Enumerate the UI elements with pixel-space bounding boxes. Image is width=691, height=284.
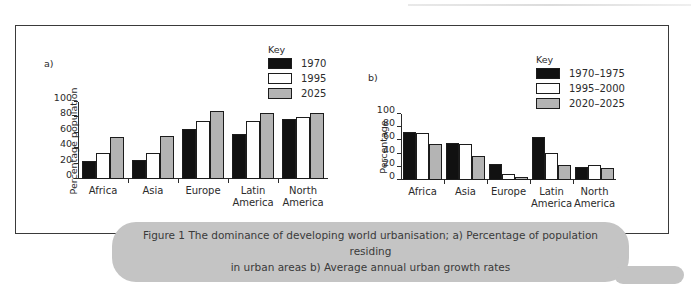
bar	[575, 167, 588, 180]
x-axis-label: Africa	[408, 186, 437, 198]
x-axis-label: Asia	[455, 186, 476, 198]
legend-swatch-icon	[268, 58, 292, 69]
scanner-artifact-line	[408, 4, 691, 6]
bar	[196, 121, 210, 179]
bar	[232, 134, 246, 179]
bar	[132, 160, 146, 179]
bar	[489, 164, 502, 181]
bar-group: Asia	[128, 102, 178, 179]
caption-line-1: Figure 1 The dominance of developing wor…	[143, 229, 598, 257]
x-tick-mark	[128, 179, 129, 183]
legend-panel-a: Key 1970 1995 2025	[268, 44, 326, 103]
legend-item: 1995–2000	[536, 83, 625, 94]
y-tick-label: 0	[66, 169, 72, 180]
bar	[532, 137, 545, 180]
y-tick-label: 20	[383, 156, 395, 167]
caption-line-2: in urban areas b) Average annual urban g…	[134, 259, 607, 275]
bar-group: Africa	[78, 102, 128, 179]
bar	[182, 129, 196, 179]
y-tick-label: 80	[383, 117, 395, 128]
legend-item: 1970	[268, 58, 326, 69]
legend-item: 2025	[268, 88, 326, 99]
chart-panel-b: b) Key 1970–1975 1995–2000 2020–2025 Per…	[352, 26, 670, 233]
panel-b-letter: b)	[368, 72, 378, 83]
x-tick-mark	[178, 179, 179, 183]
legend-item: 1995	[268, 73, 326, 84]
bar-group: Asia	[444, 114, 487, 180]
x-axis-label: Europe	[185, 185, 220, 197]
x-axis-label: Asia	[143, 185, 164, 197]
legend-title: Key	[536, 54, 625, 65]
x-axis-label: LatinAmerica	[232, 185, 273, 209]
y-tick-label: 100	[54, 92, 72, 103]
bar-group: NorthAmerica	[573, 114, 616, 180]
legend-swatch-icon	[268, 73, 292, 84]
legend-item: 2020–2025	[536, 98, 625, 109]
legend-item: 1970–1975	[536, 68, 625, 79]
legend-label: 1970–1975	[569, 68, 625, 79]
bar	[472, 156, 485, 180]
y-tick-label: 40	[383, 143, 395, 154]
bar	[210, 111, 224, 179]
x-tick-mark	[444, 180, 445, 184]
y-tick-label: 100	[377, 104, 395, 115]
bar	[260, 113, 274, 179]
x-axis-label: LatinAmerica	[531, 186, 572, 210]
bar	[82, 161, 96, 179]
bar	[515, 177, 528, 180]
bar	[246, 121, 260, 179]
x-tick-mark	[487, 180, 488, 184]
bar-group: LatinAmerica	[228, 102, 278, 179]
corner-pill-decoration	[614, 266, 684, 284]
x-tick-mark	[278, 179, 279, 183]
bar-group: LatinAmerica	[530, 114, 573, 180]
bar-group: Europe	[487, 114, 530, 180]
y-tick-label: 40	[60, 138, 72, 149]
chart-panel-a: a) Key 1970 1995 2025 Percentage populat…	[16, 26, 352, 233]
panel-a-letter: a)	[44, 58, 54, 69]
figure-caption: Figure 1 The dominance of developing wor…	[112, 222, 629, 282]
bar	[403, 132, 416, 180]
y-tick-label: 20	[60, 153, 72, 164]
legend-swatch-icon	[536, 98, 560, 109]
legend-swatch-icon	[536, 83, 560, 94]
bar	[296, 117, 310, 179]
x-axis-label: NorthAmerica	[574, 186, 615, 210]
bar	[282, 119, 296, 179]
bar	[558, 165, 571, 180]
x-tick-mark	[573, 180, 574, 184]
bar	[96, 153, 110, 179]
legend-swatch-icon	[268, 88, 292, 99]
bar	[146, 153, 160, 179]
plot-area-a: Percentage population 020406080100 Afric…	[78, 102, 328, 179]
plot-area-b: Percentage 020406080100 AfricaAsiaEurope…	[401, 114, 616, 180]
legend-label: 1995–2000	[569, 83, 625, 94]
y-tick-label: 60	[60, 122, 72, 133]
bar	[310, 113, 324, 179]
x-tick-mark	[530, 180, 531, 184]
bar	[416, 133, 429, 180]
bar	[545, 153, 558, 180]
bar-group: Europe	[178, 102, 228, 179]
legend-label: 1995	[301, 73, 326, 84]
bar	[446, 143, 459, 180]
legend-label: 2025	[301, 88, 326, 99]
figure-frame: a) Key 1970 1995 2025 Percentage populat…	[15, 25, 669, 234]
bar	[502, 174, 515, 180]
bar	[429, 144, 442, 180]
legend-title: Key	[268, 44, 326, 55]
y-tick-label: 60	[383, 130, 395, 141]
x-tick-mark	[228, 179, 229, 183]
x-axis-label: Africa	[89, 185, 118, 197]
bar-groups: AfricaAsiaEuropeLatinAmericaNorthAmerica	[401, 114, 616, 180]
x-axis-label: NorthAmerica	[282, 185, 323, 209]
bar	[588, 165, 601, 180]
bar	[601, 168, 614, 180]
legend-panel-b: Key 1970–1975 1995–2000 2020–2025	[536, 54, 625, 113]
y-tick-label: 80	[60, 107, 72, 118]
bar	[459, 144, 472, 180]
bar-group: Africa	[401, 114, 444, 180]
legend-swatch-icon	[536, 68, 560, 79]
legend-label: 1970	[301, 58, 326, 69]
bar-groups: AfricaAsiaEuropeLatinAmericaNorthAmerica	[78, 102, 328, 179]
